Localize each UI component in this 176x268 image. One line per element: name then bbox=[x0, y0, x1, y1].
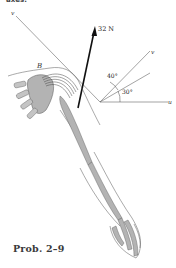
angle-30-label: 30° bbox=[122, 88, 133, 95]
point-b-label: B bbox=[37, 62, 42, 70]
humerus-bone bbox=[60, 96, 92, 165]
arm-force-diagram bbox=[0, 0, 176, 268]
angle-arc-30 bbox=[118, 91, 120, 102]
scapula-bone bbox=[27, 75, 53, 114]
angle-arc-40 bbox=[110, 82, 118, 90]
angle-40-label: 40° bbox=[107, 72, 118, 79]
inclined-axis-label: v bbox=[151, 48, 154, 55]
force-arrowhead bbox=[92, 26, 98, 36]
hand-bones bbox=[112, 218, 138, 256]
forearm-skin-inner bbox=[80, 168, 120, 226]
left-axis-label: v bbox=[11, 9, 14, 16]
force-label: 32 N bbox=[98, 25, 114, 33]
figure-caption: Prob. 2–9 bbox=[13, 243, 65, 254]
forearm-bones bbox=[88, 162, 122, 220]
horizontal-axis-label: u bbox=[168, 98, 172, 105]
